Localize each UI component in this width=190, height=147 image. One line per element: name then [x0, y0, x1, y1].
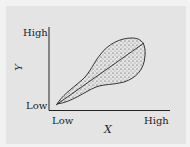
y-tick-high: High [23, 28, 48, 38]
x-tick-high: High [144, 116, 169, 126]
y-tick-low: Low [26, 101, 47, 111]
y-axis-title: Y [13, 64, 24, 71]
x-tick-low: Low [52, 116, 73, 126]
scatter-region [57, 38, 145, 104]
x-axis-title: X [104, 123, 112, 136]
